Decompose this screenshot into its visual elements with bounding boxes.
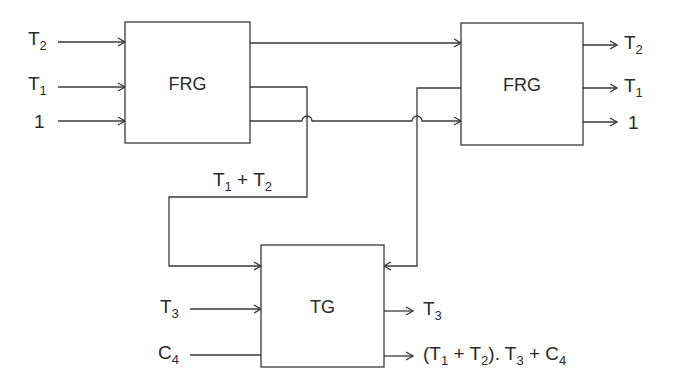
tg-output-label-t3: T3	[423, 299, 442, 318]
frg1-label: FRG	[125, 75, 250, 93]
tg-output-label-expression: (T1 + T2). T3 + C4	[423, 344, 566, 363]
input-label-1: 1	[34, 112, 45, 131]
intermediate-label-t1-plus-t2: T1 + T2	[213, 170, 272, 189]
output-label-t2: T2	[624, 33, 643, 52]
output-label-t1: T1	[624, 76, 643, 95]
tg-input-label-c4: C4	[158, 343, 179, 362]
frg2-label: FRG	[461, 76, 583, 94]
tg-label: TG	[261, 298, 384, 316]
input-label-t2: T2	[28, 29, 47, 48]
input-label-t1: T1	[28, 74, 47, 93]
diagram-wires	[0, 0, 674, 391]
reversible-logic-diagram: FRG FRG TG T2 T1 1 T2 T1 1 T1 + T2 T3 C4…	[0, 0, 674, 391]
frg1-to-frg2-bottom-wire	[250, 116, 461, 121]
frg2-to-tg-wire	[384, 88, 461, 266]
tg-input-label-t3: T3	[160, 297, 179, 316]
output-label-1: 1	[628, 113, 639, 132]
